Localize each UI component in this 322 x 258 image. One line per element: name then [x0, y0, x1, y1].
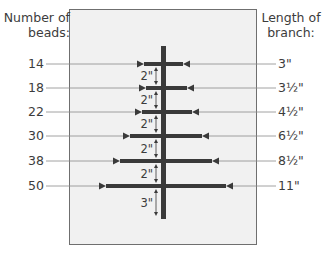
arrowhead-left-icon [226, 183, 233, 190]
arrowhead-right-icon [135, 109, 142, 116]
arrow-up-icon [154, 67, 158, 71]
arrow-down-icon [154, 129, 158, 133]
spacing-label: 3" [140, 196, 153, 210]
arrow-down-icon [154, 179, 158, 183]
trunk [161, 46, 166, 219]
spacing-label: 2" [140, 117, 153, 131]
arrowhead-right-icon [137, 61, 144, 68]
arrow-down-icon [154, 154, 158, 158]
arrow-up-icon [154, 189, 158, 193]
arrowhead-right-icon [123, 133, 130, 140]
arrowhead-left-icon [187, 85, 194, 92]
branch-bar [142, 110, 192, 114]
arrow-down-icon [154, 105, 158, 109]
arrowhead-left-icon [183, 61, 190, 68]
arrow-up-icon [154, 115, 158, 119]
arrow-up-icon [154, 91, 158, 95]
spacing-label: 2" [140, 167, 153, 181]
arrowhead-right-icon [99, 183, 106, 190]
arrowhead-left-icon [192, 109, 199, 116]
spacing-label: 2" [140, 69, 153, 83]
arrow-up-icon [154, 139, 158, 143]
arrow-down-icon [154, 81, 158, 85]
branch-bar [146, 86, 187, 90]
arrowhead-left-icon [202, 133, 209, 140]
arrow-down-icon [154, 212, 158, 216]
spacing-label: 2" [140, 142, 153, 156]
arrowhead-right-icon [139, 85, 146, 92]
tree-diagram: 2"2"2"2"2"3" [0, 0, 322, 258]
arrow-up-icon [154, 164, 158, 168]
arrowhead-left-icon [212, 158, 219, 165]
spacing-label: 2" [140, 93, 153, 107]
arrowhead-right-icon [113, 158, 120, 165]
